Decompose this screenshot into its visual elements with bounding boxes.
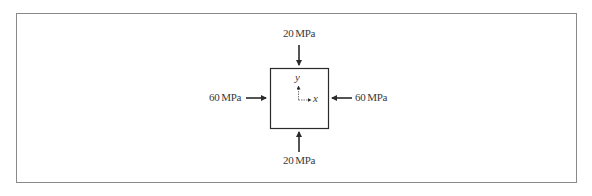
left-load-label: 60 MPa	[209, 91, 241, 103]
right-load-label: 60 MPa	[355, 91, 387, 103]
bottom-load-label: 20 MPa	[283, 154, 315, 166]
top-load-label: 20 MPa	[283, 27, 315, 39]
x-axis-label: x	[313, 92, 318, 104]
y-axis-label: y	[295, 71, 300, 83]
